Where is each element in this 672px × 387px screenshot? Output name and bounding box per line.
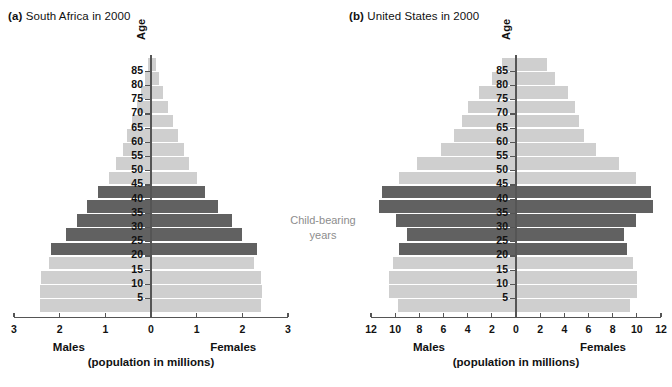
age-tick-mark-20 <box>510 255 515 256</box>
zero-axis-line <box>515 55 517 317</box>
age-tick-mark-20 <box>145 255 150 256</box>
bar-female-55-59 <box>516 143 596 156</box>
x-tick-mark-12 <box>660 313 661 317</box>
x-tick-label-1: 10 <box>383 323 407 335</box>
bar-female-60-64 <box>151 129 178 142</box>
x-axis-line <box>14 317 288 319</box>
bar-female-25-29 <box>151 228 242 241</box>
x-tick-label-2: 8 <box>407 323 431 335</box>
age-tick-mark-30 <box>145 227 150 228</box>
bar-female-85+ <box>516 58 547 71</box>
x-axis-units-label: (population in millions) <box>436 356 596 368</box>
age-tick-label-25: 25 <box>482 234 508 246</box>
x-tick-mark-5 <box>491 313 492 317</box>
x-tick-label-3: 0 <box>139 323 163 335</box>
age-tick-mark-5 <box>145 298 150 299</box>
age-tick-mark-70 <box>145 113 150 114</box>
x-tick-mark-2 <box>419 313 420 317</box>
age-tick-mark-40 <box>510 199 515 200</box>
x-tick-mark-6 <box>287 313 288 317</box>
age-tick-mark-80 <box>145 85 150 86</box>
panel-united-states: (b) United States in 2000 Age51015202530… <box>332 0 664 387</box>
x-tick-label-6: 0 <box>504 323 528 335</box>
bar-female-50-54 <box>516 157 619 170</box>
age-tick-label-75: 75 <box>117 92 143 104</box>
age-tick-mark-70 <box>510 113 515 114</box>
x-tick-label-5: 2 <box>480 323 504 335</box>
x-tick-mark-4 <box>467 313 468 317</box>
age-tick-mark-80 <box>510 85 515 86</box>
child-bearing-years-annotation: Child-bearing years <box>286 213 360 243</box>
age-tick-label-40: 40 <box>117 192 143 204</box>
x-tick-label-9: 6 <box>577 323 601 335</box>
age-tick-label-50: 50 <box>482 163 508 175</box>
age-tick-label-75: 75 <box>482 92 508 104</box>
bar-female-55-59 <box>151 143 184 156</box>
x-axis-label-females: Females <box>571 341 635 353</box>
age-tick-label-65: 65 <box>482 121 508 133</box>
age-tick-mark-45 <box>145 184 150 185</box>
x-axis-label-males: Males <box>39 341 99 353</box>
age-tick-mark-35 <box>510 213 515 214</box>
x-tick-mark-11 <box>636 313 637 317</box>
x-tick-mark-3 <box>443 313 444 317</box>
bar-female-20-24 <box>516 243 627 256</box>
age-tick-mark-55 <box>145 156 150 157</box>
x-tick-mark-8 <box>564 313 565 317</box>
x-tick-mark-7 <box>540 313 541 317</box>
bar-female-15-19 <box>516 257 633 270</box>
age-tick-label-30: 30 <box>482 220 508 232</box>
bar-female-60-64 <box>516 129 584 142</box>
bar-female-35-39 <box>516 200 653 213</box>
bar-female-80-84 <box>151 72 159 85</box>
bar-female-80-84 <box>516 72 555 85</box>
bar-female-30-34 <box>516 214 636 227</box>
age-tick-mark-15 <box>510 270 515 271</box>
age-tick-mark-5 <box>510 298 515 299</box>
age-tick-label-70: 70 <box>482 106 508 118</box>
age-tick-label-65: 65 <box>117 121 143 133</box>
age-tick-label-35: 35 <box>482 206 508 218</box>
bar-female-85+ <box>151 58 156 71</box>
x-tick-label-5: 2 <box>230 323 254 335</box>
x-tick-mark-5 <box>242 313 243 317</box>
x-axis-label-males: Males <box>399 341 459 353</box>
age-tick-label-25: 25 <box>117 234 143 246</box>
x-tick-mark-4 <box>196 313 197 317</box>
x-tick-mark-1 <box>395 313 396 317</box>
bar-female-10-14 <box>151 271 261 284</box>
x-tick-label-7: 2 <box>528 323 552 335</box>
x-axis-units-label: (population in millions) <box>71 356 231 368</box>
x-tick-mark-3 <box>150 313 151 317</box>
bar-female-50-54 <box>151 157 189 170</box>
age-tick-mark-15 <box>145 270 150 271</box>
x-tick-label-1: 2 <box>48 323 72 335</box>
bar-female-10-14 <box>516 271 637 284</box>
age-tick-label-35: 35 <box>117 206 143 218</box>
x-tick-mark-2 <box>105 313 106 317</box>
age-tick-label-10: 10 <box>117 277 143 289</box>
age-tick-mark-55 <box>510 156 515 157</box>
bar-female-75-79 <box>151 86 163 99</box>
x-tick-label-0: 3 <box>2 323 26 335</box>
y-axis-title: Age <box>500 19 512 40</box>
x-tick-label-2: 1 <box>93 323 117 335</box>
x-tick-label-12: 12 <box>649 323 672 335</box>
x-tick-mark-9 <box>588 313 589 317</box>
age-tick-label-30: 30 <box>117 220 143 232</box>
x-tick-mark-6 <box>515 313 516 317</box>
x-tick-mark-0 <box>13 313 14 317</box>
plot-area-united-states: Age5101520253035404550556065707580851210… <box>332 0 664 387</box>
age-tick-label-60: 60 <box>117 135 143 147</box>
age-tick-mark-40 <box>145 199 150 200</box>
age-tick-mark-50 <box>510 170 515 171</box>
age-tick-label-50: 50 <box>117 163 143 175</box>
age-tick-mark-25 <box>145 241 150 242</box>
age-tick-label-20: 20 <box>482 248 508 260</box>
bar-female-35-39 <box>151 200 218 213</box>
bar-female-75-79 <box>516 86 568 99</box>
x-tick-mark-1 <box>59 313 60 317</box>
age-tick-mark-60 <box>510 142 515 143</box>
age-tick-label-45: 45 <box>117 177 143 189</box>
age-tick-mark-75 <box>145 99 150 100</box>
